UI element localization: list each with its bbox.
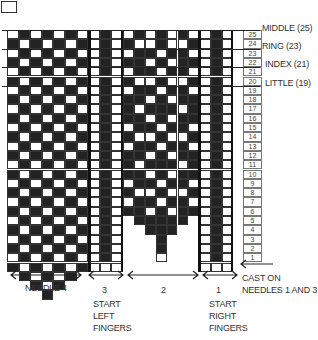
needle-2-cell	[156, 151, 167, 160]
needle-2-cell	[134, 86, 145, 95]
needle-2-cell	[156, 142, 167, 151]
needle-2-cell	[178, 142, 189, 151]
needle-1-cell	[211, 95, 222, 104]
needle-2-cell	[134, 77, 145, 86]
needle-2-cell	[156, 253, 167, 262]
needle-2-cell	[178, 216, 189, 225]
needle-4-cell	[7, 225, 19, 234]
needle-4-cell	[77, 49, 89, 58]
needle-3-cell	[100, 207, 111, 216]
needle-4-cell	[30, 151, 42, 160]
needle-3-cell	[100, 39, 111, 48]
needle-4-cell	[7, 30, 19, 39]
needle-2-cell	[178, 114, 189, 123]
needle-4-cell	[53, 58, 65, 67]
needle-2-cell	[145, 216, 156, 225]
needle-2-cell	[156, 225, 167, 234]
needle-2-cell	[178, 49, 189, 58]
needle-4-cell	[19, 95, 31, 104]
needle-1-sublabel: START RIGHT FINGERS	[209, 298, 248, 334]
row-number: 22	[243, 58, 262, 67]
row-number: 14	[243, 132, 262, 141]
needle-4-cell	[19, 197, 31, 206]
row-number: 16	[243, 114, 262, 123]
needle-3-cell	[100, 123, 111, 132]
needle-1-cell	[211, 207, 222, 216]
needle-4-cell	[53, 225, 65, 234]
finger-marker-line	[2, 67, 260, 68]
needle-2-cell	[145, 207, 156, 216]
needle-3-span-arrow	[88, 270, 124, 280]
needle-4-cell	[30, 95, 42, 104]
needle-3-cell	[100, 95, 111, 104]
needle-4-cell	[30, 160, 42, 169]
needle-2-cell	[167, 58, 178, 67]
needle-2-cell	[123, 197, 134, 206]
needle-1-cell	[200, 114, 211, 123]
needle-2-cell	[145, 86, 156, 95]
needle-4-cell	[65, 151, 77, 160]
needle-4-cell	[65, 86, 77, 95]
needle-3-cell	[100, 188, 111, 197]
needle-4-cell	[42, 123, 54, 132]
needle-4-cell	[53, 123, 65, 132]
needle-3-sublabel: START LEFT FINGERS	[93, 298, 132, 334]
needle-4-cell	[42, 207, 54, 216]
needle-2-cell	[145, 132, 156, 141]
needle-2-cell	[167, 225, 178, 234]
needle-4-cell	[77, 160, 89, 169]
needle-2-cell	[167, 179, 178, 188]
row-number: 19	[243, 86, 262, 95]
needle-3-cell	[100, 225, 111, 234]
needle-4-cell	[65, 58, 77, 67]
needle-4-cell	[42, 151, 54, 160]
needle-4-cell	[30, 179, 42, 188]
needle-2-cell	[123, 67, 134, 76]
needle-3-cell	[100, 244, 111, 253]
needle-4-cell	[53, 132, 65, 141]
needle-4-cell	[42, 160, 54, 169]
needle-4-cell	[7, 142, 19, 151]
needle-2-cell	[178, 39, 189, 48]
needle-4-cell	[65, 160, 77, 169]
needle-4-cell	[19, 207, 31, 216]
needle-1-cell	[200, 170, 211, 179]
needle-4-cell	[77, 114, 89, 123]
needle-4-cell	[30, 114, 42, 123]
needle-4-cell	[53, 142, 65, 151]
needle-1-cell	[200, 244, 211, 253]
needle-4-cell	[30, 142, 42, 151]
needle-2-cell	[134, 151, 145, 160]
needle-4-cell	[53, 67, 65, 76]
needle-1-cell	[211, 151, 222, 160]
needle-2-label: 2	[161, 284, 166, 296]
needle-4-cell	[7, 188, 19, 197]
needle-2-cell	[178, 207, 189, 216]
needle-2-cell	[145, 123, 156, 132]
needle-4-cell	[77, 179, 89, 188]
needle-4-cell	[77, 170, 89, 179]
needle-1-cell	[211, 132, 222, 141]
needle-3-cell	[100, 86, 111, 95]
needle-4-cell	[53, 244, 65, 253]
needle-2-cell	[123, 58, 134, 67]
needle-4-label: NEEDLE 4	[25, 282, 67, 294]
needle-3-cell	[100, 49, 111, 58]
needle-4-cell	[19, 160, 31, 169]
needle-2-cell	[134, 160, 145, 169]
needle-2-cell	[134, 123, 145, 132]
needle-3-cell	[100, 179, 111, 188]
needle-4-cell	[65, 114, 77, 123]
needle-3-label: 3	[102, 284, 107, 296]
needle-4-cell	[30, 244, 42, 253]
row-number: 11	[243, 160, 262, 169]
needle-4-cell	[7, 244, 19, 253]
needle-1-cell	[211, 188, 222, 197]
needle-4-cell	[65, 123, 77, 132]
needle-2-cell	[156, 95, 167, 104]
needle-4-cell	[77, 244, 89, 253]
needle-1-cell	[200, 179, 211, 188]
needle-4-cell	[30, 188, 42, 197]
needle-4-cell	[30, 67, 42, 76]
needle-4-cell	[65, 30, 77, 39]
